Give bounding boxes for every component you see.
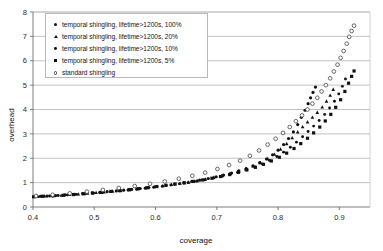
data-point bbox=[318, 125, 321, 128]
data-point bbox=[254, 166, 257, 169]
data-point bbox=[311, 91, 314, 94]
data-point bbox=[178, 182, 181, 185]
data-point bbox=[347, 82, 350, 85]
data-point bbox=[51, 193, 55, 197]
data-point bbox=[288, 125, 292, 129]
data-point bbox=[307, 102, 310, 105]
data-point bbox=[324, 119, 327, 122]
open-circle-icon bbox=[51, 68, 60, 77]
data-point bbox=[352, 69, 355, 72]
data-point bbox=[245, 168, 248, 171]
data-point bbox=[85, 190, 89, 194]
filled-circle-icon bbox=[51, 20, 60, 29]
data-point bbox=[285, 142, 289, 145]
data-point bbox=[187, 181, 190, 184]
data-point bbox=[316, 111, 320, 114]
data-point bbox=[115, 189, 118, 192]
data-point bbox=[328, 76, 332, 80]
data-point bbox=[133, 184, 137, 188]
legend-label: temporal shingling, lifetime>1200s, 20% bbox=[62, 33, 178, 40]
data-point bbox=[282, 143, 285, 146]
y-axis-title: overhead bbox=[7, 108, 16, 141]
data-point bbox=[34, 194, 38, 198]
data-point bbox=[210, 177, 213, 180]
data-point bbox=[82, 192, 85, 195]
data-point bbox=[155, 185, 158, 188]
y-tick-label: 2 bbox=[23, 154, 27, 163]
x-tick-label: 0.6 bbox=[150, 213, 160, 222]
data-point bbox=[301, 125, 305, 128]
data-point bbox=[343, 90, 346, 93]
data-point bbox=[318, 119, 321, 122]
data-point bbox=[344, 78, 347, 81]
data-point bbox=[207, 177, 210, 180]
legend-label: standard shingling bbox=[62, 69, 115, 76]
data-point bbox=[296, 123, 299, 126]
data-point bbox=[339, 98, 342, 101]
data-point bbox=[41, 195, 44, 198]
data-point bbox=[137, 187, 140, 190]
data-point bbox=[201, 178, 204, 181]
y-tick-label: 1 bbox=[23, 178, 27, 187]
data-point bbox=[91, 192, 94, 195]
data-point bbox=[285, 152, 288, 155]
data-point bbox=[228, 173, 231, 176]
data-point bbox=[289, 146, 292, 149]
chart-container: 012345678 0.40.50.60.70.80.9 overhead co… bbox=[0, 0, 383, 251]
data-point bbox=[332, 70, 336, 74]
y-axis-ticks: 012345678 bbox=[23, 8, 33, 212]
data-point bbox=[257, 149, 261, 153]
data-point bbox=[334, 106, 337, 109]
data-point bbox=[270, 159, 273, 162]
data-point bbox=[163, 180, 167, 184]
data-point bbox=[350, 29, 354, 33]
data-point bbox=[306, 137, 309, 140]
data-point bbox=[295, 141, 298, 144]
legend-item-temporal-5: temporal shingling, lifetime>1200s, 5% bbox=[51, 55, 203, 67]
data-point bbox=[294, 119, 298, 123]
data-point bbox=[300, 114, 304, 118]
y-tick-label: 7 bbox=[23, 32, 27, 41]
data-point bbox=[117, 186, 121, 190]
legend-item-temporal-10: temporal shingling, lifetime>1200s, 10% bbox=[51, 42, 203, 54]
data-point bbox=[278, 156, 281, 159]
data-point bbox=[352, 24, 356, 28]
x-axis-ticks: 0.40.50.60.70.80.9 bbox=[28, 207, 345, 222]
legend-item-temporal-100: temporal shingling, lifetime>1200s, 100% bbox=[51, 18, 203, 30]
data-point bbox=[195, 180, 198, 183]
x-tick-label: 0.5 bbox=[89, 213, 99, 222]
series-filled-circle bbox=[34, 85, 317, 198]
data-point bbox=[314, 85, 317, 88]
data-point bbox=[237, 171, 240, 174]
legend-label: temporal shingling, lifetime>1200s, 100% bbox=[62, 21, 182, 28]
chart-legend: temporal shingling, lifetime>1200s, 100%… bbox=[45, 13, 208, 78]
data-point bbox=[292, 147, 295, 150]
y-tick-label: 8 bbox=[23, 8, 27, 17]
data-point bbox=[192, 180, 195, 183]
data-point bbox=[331, 88, 335, 91]
data-point bbox=[152, 186, 155, 189]
data-point bbox=[301, 135, 304, 138]
data-point bbox=[307, 130, 310, 133]
data-point bbox=[164, 184, 167, 187]
data-point bbox=[190, 174, 194, 178]
data-point bbox=[177, 177, 181, 181]
data-point bbox=[329, 113, 332, 116]
data-point bbox=[109, 190, 112, 193]
legend-label: temporal shingling, lifetime>1200s, 10% bbox=[62, 45, 178, 52]
data-point bbox=[296, 130, 300, 133]
data-point bbox=[311, 102, 315, 106]
data-point bbox=[290, 136, 294, 139]
data-point bbox=[266, 143, 270, 147]
data-point bbox=[287, 137, 290, 140]
data-point bbox=[62, 194, 65, 197]
legend-item-standard: standard shingling bbox=[51, 67, 203, 79]
data-point bbox=[161, 185, 164, 188]
filled-square-icon bbox=[51, 56, 60, 65]
x-tick-label: 0.9 bbox=[334, 213, 344, 222]
data-point bbox=[347, 35, 351, 39]
legend-label: temporal shingling, lifetime>1200s, 5% bbox=[62, 57, 174, 64]
data-point bbox=[328, 107, 331, 110]
data-point bbox=[101, 188, 105, 192]
data-point bbox=[216, 167, 220, 171]
